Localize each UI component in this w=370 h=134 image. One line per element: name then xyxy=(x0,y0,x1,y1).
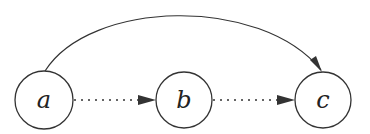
arrowhead-b-to-c-icon xyxy=(277,95,295,105)
node-a: a xyxy=(15,71,73,129)
arrowhead-a-to-c-icon xyxy=(310,56,322,72)
arrowhead-a-to-b-icon xyxy=(138,95,156,105)
node-b-label: b xyxy=(176,86,191,114)
graph-diagram: a b c xyxy=(0,0,370,134)
node-c-label: c xyxy=(316,86,329,114)
edge-a-to-c xyxy=(45,16,321,71)
node-b: b xyxy=(156,72,212,128)
node-c: c xyxy=(295,72,351,128)
node-a-label: a xyxy=(37,86,51,114)
